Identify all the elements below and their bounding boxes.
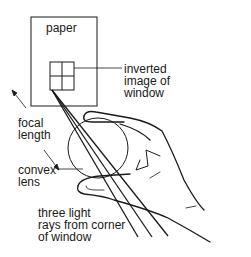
paper-label: paper: [46, 22, 77, 34]
focal-length-label-2: length: [18, 129, 51, 141]
light-rays-label-3: of window: [38, 231, 91, 243]
convex-lens-label-2: lens: [18, 176, 40, 188]
inverted-window-image: [50, 62, 74, 90]
inverted-image-label-3: window: [124, 87, 164, 99]
